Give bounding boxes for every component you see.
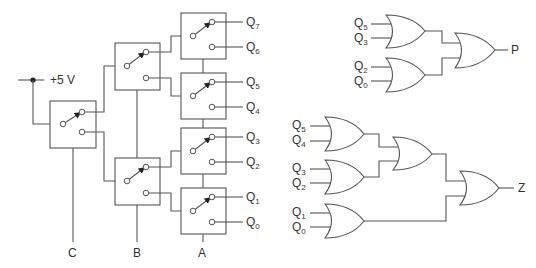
p-circuit (371, 15, 508, 92)
select-label-b: B (133, 247, 141, 259)
z-input-q3: Q3 (292, 162, 306, 177)
output-label-q6: Q6 (246, 41, 260, 56)
p-input-q2: Q2 (354, 60, 368, 75)
output-label-q4: Q4 (246, 101, 260, 116)
diagram-canvas (0, 0, 536, 268)
switch-a-2 (181, 73, 243, 119)
z-output-label: Z (518, 182, 525, 194)
output-label-q1: Q1 (246, 191, 260, 206)
output-label-q2: Q2 (246, 156, 260, 171)
switch-a-3 (181, 128, 243, 174)
z-input-q5: Q5 (292, 119, 306, 134)
switch-b-bottom (115, 158, 160, 205)
switch-c (50, 101, 96, 242)
switch-a-4 (181, 188, 243, 234)
output-label-q0: Q0 (246, 216, 260, 231)
z-input-q2: Q2 (292, 177, 306, 192)
p-output-label: P (511, 44, 519, 56)
supply-label: +5 V (50, 74, 75, 86)
output-label-q3: Q3 (246, 131, 260, 146)
z-input-q1: Q1 (292, 206, 306, 221)
p-input-q0: Q0 (354, 75, 368, 90)
z-circuit (310, 117, 514, 238)
switch-b-top (115, 43, 160, 90)
p-input-q3: Q3 (354, 32, 368, 47)
z-input-q4: Q4 (292, 134, 306, 149)
select-label-a: A (198, 247, 206, 259)
output-label-q5: Q5 (246, 76, 260, 91)
select-label-c: C (68, 247, 77, 259)
p-input-q5: Q5 (354, 17, 368, 32)
z-input-q0: Q0 (292, 221, 306, 236)
switch-a-1 (181, 13, 243, 59)
output-label-q7: Q7 (246, 16, 260, 31)
